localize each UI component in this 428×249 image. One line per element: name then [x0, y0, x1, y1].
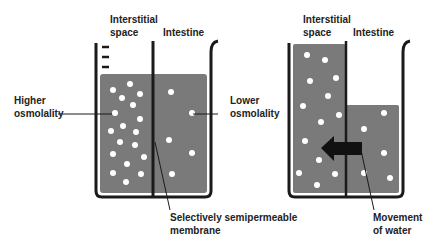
particle: [169, 171, 175, 177]
label-higher-2: osmolality: [14, 108, 64, 119]
label-lower-1: Lower: [230, 95, 260, 106]
particle: [141, 154, 147, 160]
particle: [166, 137, 172, 143]
label-higher-1: Higher: [14, 95, 46, 106]
particle: [302, 138, 308, 144]
particle: [127, 81, 133, 87]
particle: [119, 95, 125, 101]
particle: [387, 175, 393, 181]
particle: [124, 161, 130, 167]
label-membrane-2: membrane: [170, 225, 221, 236]
particle: [137, 91, 143, 97]
particle: [307, 78, 313, 84]
right-beaker: [289, 41, 410, 210]
particle: [381, 150, 387, 156]
particle: [316, 157, 322, 163]
particle: [300, 103, 306, 109]
particle: [110, 151, 116, 157]
particle: [189, 110, 195, 116]
particle: [189, 150, 195, 156]
right-label-interstitial-1: Interstitial: [303, 14, 351, 25]
particle: [123, 179, 129, 185]
particle: [361, 126, 367, 132]
particle: [322, 57, 328, 63]
right-label-interstitial-2: space: [303, 27, 332, 38]
particle: [108, 128, 114, 134]
label-movement-2: of water: [373, 225, 411, 236]
particle: [336, 112, 342, 118]
particle: [117, 139, 123, 145]
left-beaker: [58, 41, 218, 210]
particle: [314, 182, 320, 188]
particle: [132, 142, 138, 148]
left-label-interstitial-2: space: [110, 27, 139, 38]
particle: [120, 123, 126, 129]
particle: [168, 89, 174, 95]
particle: [332, 171, 338, 177]
particle: [138, 171, 144, 177]
right-interstitial-fluid: [293, 44, 346, 193]
left-label-intestine: Intestine: [163, 27, 205, 38]
particle: [133, 129, 139, 135]
particle: [112, 110, 118, 116]
particle: [304, 52, 310, 58]
particle: [333, 75, 339, 81]
particle: [296, 170, 302, 176]
particle: [110, 170, 116, 176]
label-movement-1: Movement: [373, 212, 423, 223]
particle: [318, 119, 324, 125]
osmosis-diagram: Interstitial space Intestine Higher osmo…: [0, 0, 428, 249]
particle: [110, 87, 116, 93]
left-label-interstitial-1: Interstitial: [110, 14, 158, 25]
particle: [325, 93, 331, 99]
label-membrane-1: Selectively semipermeable: [170, 212, 298, 223]
particle: [130, 102, 136, 108]
right-label-intestine: Intestine: [353, 27, 395, 38]
particle: [137, 116, 143, 122]
particle: [381, 110, 387, 116]
label-lower-2: osmolality: [230, 108, 280, 119]
